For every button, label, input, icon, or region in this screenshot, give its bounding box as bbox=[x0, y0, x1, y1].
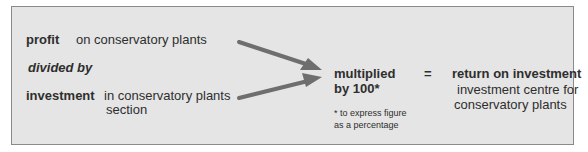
result-description-line1: investment centre for bbox=[457, 82, 578, 97]
result-title: return on investment bbox=[452, 66, 581, 81]
equals-sign: = bbox=[424, 66, 432, 81]
footnote-line1: * to express figure bbox=[334, 108, 407, 119]
arrow-icon bbox=[239, 42, 322, 70]
arrow-icon bbox=[239, 73, 322, 98]
multiplied-line2: by 100* bbox=[334, 81, 380, 96]
footnote-line2: as a percentage bbox=[334, 120, 399, 131]
result-description-line2: conservatory plants bbox=[454, 97, 567, 112]
multiplied-line1: multiplied bbox=[334, 66, 395, 81]
